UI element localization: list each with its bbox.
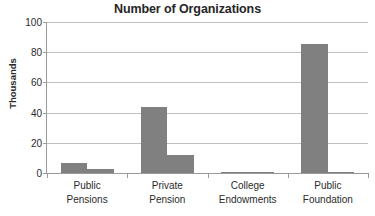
y-tick-label: 60 (8, 77, 42, 88)
y-tick-label: 80 (8, 47, 42, 58)
x-axis-category-label: PrivatePension (127, 179, 207, 207)
bar (61, 163, 87, 173)
x-axis-category-label-line: Pension (127, 193, 207, 207)
y-tick-label: 100 (8, 17, 42, 28)
x-tick-mark (288, 173, 289, 178)
chart-title: Number of Organizations (0, 2, 375, 16)
x-axis-category-label-line: Public (47, 179, 127, 193)
x-tick-mark (47, 173, 48, 178)
gridline (47, 22, 368, 23)
x-axis-category-label-line: College (208, 179, 288, 193)
bar (248, 172, 274, 173)
plot-area (47, 22, 368, 173)
x-axis-category-label-line: Endowments (208, 193, 288, 207)
y-tick-label: 0 (8, 168, 42, 179)
x-axis-category-label-line: Pensions (47, 193, 127, 207)
bar (87, 169, 113, 173)
x-axis-category-label-line: Foundation (288, 193, 368, 207)
x-tick-mark (127, 173, 128, 178)
bar (301, 44, 327, 173)
bar (167, 155, 193, 173)
x-tick-mark (368, 173, 369, 178)
y-tick-label: 20 (8, 137, 42, 148)
y-tick-label: 40 (8, 107, 42, 118)
x-tick-mark (208, 173, 209, 178)
x-axis-category-label: PublicPensions (47, 179, 127, 207)
bar (328, 172, 354, 173)
x-axis-category-label-line: Public (288, 179, 368, 193)
x-axis-category-label: PublicFoundation (288, 179, 368, 207)
bar (141, 107, 167, 173)
x-axis-category-label-line: Private (127, 179, 207, 193)
x-axis-category-label: CollegeEndowments (208, 179, 288, 207)
chart-container: Number of Organizations Thousands 020406… (0, 0, 375, 216)
bar (221, 172, 247, 173)
y-axis-ticks: 020406080100 (0, 22, 42, 173)
